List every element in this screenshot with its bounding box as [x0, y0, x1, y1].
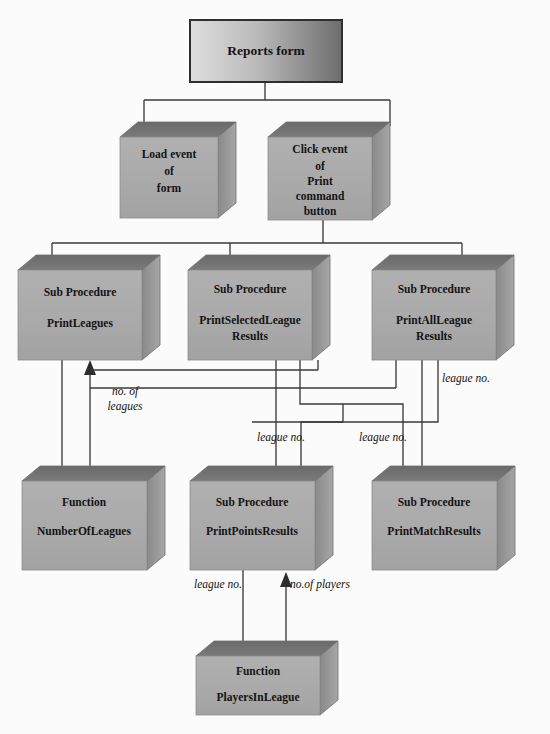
printleagues-cube-front[interactable]: [18, 270, 142, 360]
edge-label-no-of-players: no.of players: [290, 578, 351, 591]
printleagues-label-kind: Sub Procedure: [44, 286, 117, 298]
printall-cube-side: [496, 255, 514, 360]
node-sub-print-match-results[interactable]: Sub Procedure PrintMatchResults: [372, 466, 515, 570]
node-func-number-of-leagues[interactable]: Function NumberOfLeagues: [22, 466, 165, 570]
edge-label-no-of-leagues-line1: no. of: [112, 385, 140, 398]
node-func-players-in-league[interactable]: Function PlayersInLeague: [196, 641, 338, 715]
printleagues-cube-top: [18, 255, 160, 270]
click-event-cube-top: [268, 122, 390, 137]
playersinleague-label-kind: Function: [236, 665, 281, 677]
printpoints-cube-side: [315, 466, 333, 570]
edge-label-league-no-points-a: league no.: [257, 431, 305, 444]
node-sub-print-selected-league-results[interactable]: Sub Procedure PrintSelectedLeague Result…: [188, 255, 330, 360]
node-sub-print-all-league-results[interactable]: Sub Procedure PrintAllLeague Results: [372, 255, 514, 360]
canvas-background: [0, 0, 550, 734]
click-event-label-line3: Print: [307, 175, 333, 187]
load-event-label-line1: Load event: [142, 148, 197, 160]
printmatch-label-name: PrintMatchResults: [387, 525, 481, 537]
node-sub-print-points-results[interactable]: Sub Procedure PrintPointsResults: [190, 466, 333, 570]
click-event-label-line2: of: [315, 160, 325, 172]
edge-label-league-no-right: league no.: [442, 372, 490, 385]
playersinleague-label-name: PlayersInLeague: [216, 691, 299, 704]
printall-cube-top: [372, 255, 514, 270]
printselected-cube-top: [188, 255, 330, 270]
printall-label-name2: Results: [416, 330, 452, 342]
printpoints-label-name: PrintPointsResults: [206, 525, 299, 537]
load-event-cube-top: [120, 122, 236, 137]
node-click-event-print[interactable]: Click event of Print command button: [268, 122, 390, 220]
click-event-label-line1: Click event: [292, 143, 347, 155]
printall-label-kind: Sub Procedure: [398, 283, 471, 295]
printselected-label-name1: PrintSelectedLeague: [199, 314, 301, 327]
reports-form-label: Reports form: [227, 43, 305, 58]
printselected-label-kind: Sub Procedure: [214, 283, 287, 295]
printselected-cube-side: [312, 255, 330, 360]
printleagues-label-name: PrintLeagues: [47, 317, 113, 330]
load-event-cube-side: [218, 122, 236, 218]
printselected-label-name2: Results: [232, 330, 268, 342]
edge-label-league-no-points-b: league no.: [359, 431, 407, 444]
numberofleagues-label-name: NumberOfLeagues: [37, 525, 131, 538]
numberofleagues-cube-side: [147, 466, 165, 570]
click-event-label-line5: button: [304, 205, 337, 217]
printmatch-label-kind: Sub Procedure: [398, 496, 471, 508]
node-reports-form[interactable]: Reports form: [190, 20, 342, 82]
structure-chart-diagram: Reports form Load event of form Click ev…: [0, 0, 550, 734]
printmatch-cube-side: [497, 466, 515, 570]
click-event-label-line4: command: [296, 190, 345, 202]
printleagues-cube-side: [142, 255, 160, 360]
edge-label-league-no-players: league no.: [194, 578, 242, 591]
edge-label-no-of-leagues-line2: leagues: [107, 400, 143, 413]
printpoints-label-kind: Sub Procedure: [216, 496, 289, 508]
load-event-label-line3: form: [157, 182, 182, 194]
printmatch-cube-top: [372, 466, 515, 481]
numberofleagues-label-kind: Function: [62, 496, 107, 508]
click-event-cube-side: [372, 122, 390, 220]
load-event-label-line2: of: [164, 165, 174, 177]
printall-label-name1: PrintAllLeague: [396, 314, 472, 327]
numberofleagues-cube-top: [22, 466, 165, 481]
node-sub-print-leagues[interactable]: Sub Procedure PrintLeagues: [18, 255, 160, 360]
printpoints-cube-top: [190, 466, 333, 481]
node-load-event-form[interactable]: Load event of form: [120, 122, 236, 218]
playersinleague-cube-top: [196, 641, 338, 656]
